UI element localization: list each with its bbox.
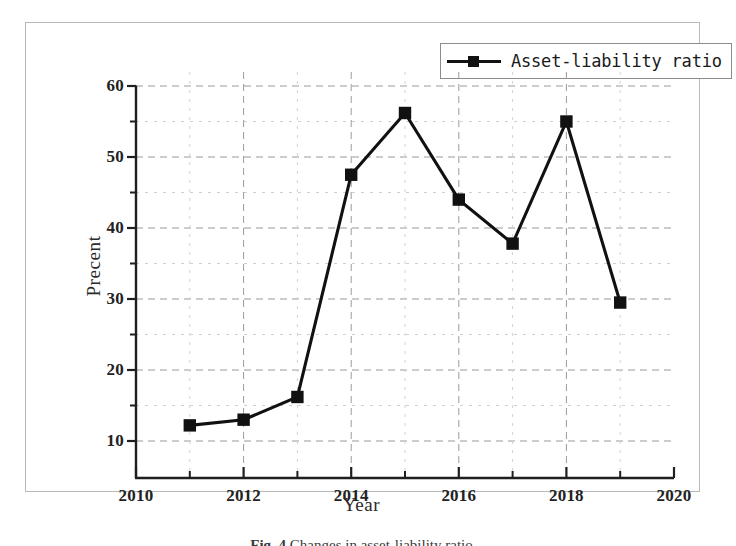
y-tick-label: 60	[78, 76, 124, 96]
figure-caption-number: Fig. 4	[250, 537, 286, 546]
y-tick-label: 20	[78, 360, 124, 380]
y-tick-label: 10	[78, 431, 124, 451]
y-tick-label: 40	[78, 218, 124, 238]
series-data-point-marker	[345, 169, 357, 181]
gridlines-group	[136, 72, 674, 478]
series-data-point-marker	[399, 107, 411, 119]
series-data-point-marker	[453, 193, 465, 205]
legend-line-square-marker-icon	[447, 53, 501, 69]
series-data-point-marker	[184, 419, 196, 431]
series-data-point-marker	[506, 237, 518, 249]
series-data-point-marker	[560, 115, 572, 127]
chart-legend[interactable]: Asset-liability ratio	[440, 43, 732, 79]
plot-area: 102030405060201020122014201620182020	[136, 86, 674, 441]
figure-caption: Fig. 4 Changes in asset-liability ratio	[0, 530, 723, 546]
axis-ticks-group	[127, 86, 674, 478]
y-axis-title: Precent	[83, 196, 105, 336]
legend-entry-label: Asset-liability ratio	[511, 51, 722, 71]
figure-frame: Precent Asset-liability ratio 1020304050…	[25, 22, 700, 492]
plot-canvas	[136, 86, 736, 506]
y-tick-label: 50	[78, 147, 124, 167]
y-tick-label: 30	[78, 289, 124, 309]
figure-caption-text: Changes in asset-liability ratio	[290, 537, 473, 546]
x-axis-title: Year	[0, 494, 723, 516]
series-data-point-marker	[291, 391, 303, 403]
series-data-point-marker	[614, 296, 626, 308]
series-data-point-marker	[237, 414, 249, 426]
